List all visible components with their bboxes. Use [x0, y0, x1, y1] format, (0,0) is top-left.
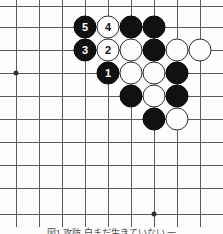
grid-line-horizontal-8: [0, 188, 223, 189]
grid-line-horizontal-0: [0, 6, 223, 7]
stone-white-w-c6r3[interactable]: [143, 62, 166, 85]
star-point-bottom: [152, 212, 157, 217]
stone-move-number: 2: [105, 44, 111, 55]
stone-black-b-c6r1[interactable]: [143, 16, 166, 39]
stone-move-number: 1: [105, 67, 111, 78]
star-point-left: [14, 71, 19, 76]
stone-move-number: 3: [82, 44, 88, 55]
stone-white-move-2[interactable]: 2: [97, 39, 120, 62]
stone-white-w-c6r4[interactable]: [143, 85, 166, 108]
grid-line-vertical-1: [39, 0, 40, 227]
stone-white-w-c7r2[interactable]: [166, 39, 189, 62]
stone-black-move-1[interactable]: 1: [97, 62, 120, 85]
stone-move-number: 5: [82, 21, 88, 32]
figure-caption-text: 図1 攻防 白まだ生きていない 一: [47, 226, 177, 234]
grid-line-vertical-0: [16, 0, 17, 227]
grid-line-horizontal-7: [0, 165, 223, 166]
stone-black-move-3[interactable]: 3: [74, 39, 97, 62]
stone-white-w-c8r2[interactable]: [189, 39, 212, 62]
stone-move-number: 4: [105, 21, 111, 32]
stone-black-b-c5r1[interactable]: [120, 16, 143, 39]
grid-line-horizontal-6: [0, 142, 223, 143]
grid-line-horizontal-4: [0, 96, 223, 97]
stone-black-b-c7r3[interactable]: [166, 62, 189, 85]
grid-line-horizontal-5: [0, 119, 223, 120]
stone-black-b-c5r4[interactable]: [120, 85, 143, 108]
grid-line-horizontal-9: [0, 214, 223, 215]
stone-white-w-c7r5[interactable]: [166, 108, 189, 131]
stone-white-w-c5r2[interactable]: [120, 39, 143, 62]
grid-line-vertical-8: [200, 0, 201, 227]
stone-white-w-c5r3[interactable]: [120, 62, 143, 85]
stone-black-move-5[interactable]: 5: [74, 16, 97, 39]
stone-black-b-c6r5[interactable]: [143, 108, 166, 131]
go-board[interactable]: 54321: [0, 0, 223, 234]
stone-black-b-c6r2[interactable]: [143, 39, 166, 62]
grid-line-vertical-2: [62, 0, 63, 227]
stone-black-b-c7r4[interactable]: [166, 85, 189, 108]
stone-white-move-4[interactable]: 4: [97, 16, 120, 39]
go-board-figure: 54321 図1 攻防 白まだ生きていない 一: [0, 0, 223, 234]
figure-caption: 図1 攻防 白まだ生きていない 一: [0, 225, 223, 234]
